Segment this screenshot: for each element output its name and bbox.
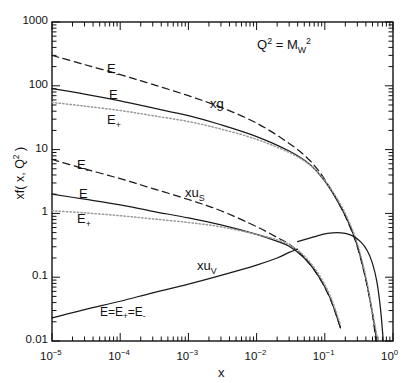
y-axis-label-tail: ) [13, 147, 27, 155]
x-tick-mantissa: 10 [245, 350, 258, 362]
y-tick-label: 1000 [22, 14, 48, 26]
e-plus-base: E [77, 211, 86, 226]
e-minus-base: E [77, 157, 86, 172]
x-tick-label: 10−3 [176, 348, 198, 362]
label-xu-sea: xuS [185, 185, 205, 203]
label-xu-sea-base: xu [185, 185, 199, 200]
y-tick-label: 100 [29, 78, 48, 90]
x-tick-exponent: 0 [394, 348, 398, 357]
x-tick-exponent: −4 [121, 348, 130, 357]
mw-subscript: W [298, 45, 306, 55]
figure-root: 0.010.11101001000 10−510−410−310−210−110… [0, 0, 417, 383]
e-minus-base: E [107, 61, 116, 76]
x-tick-label: 100 [381, 348, 398, 362]
valence-note-sub2: - [143, 312, 146, 321]
x-tick-exponent: −2 [257, 348, 266, 357]
y-axis-label-exponent: 2 [11, 154, 21, 159]
x-tick-exponent: −1 [326, 348, 335, 357]
label-xu-valence-subscript: V [211, 266, 217, 276]
label-gluon-e-minus: E- [107, 61, 119, 79]
x-tick-exponent: −5 [53, 348, 62, 357]
x-tick-label: 10−1 [313, 348, 335, 362]
e-plus-base: E [107, 112, 116, 127]
label-xu-valence-base: xu [197, 258, 211, 273]
x-tick-mantissa: 10 [176, 350, 189, 362]
y-tick-label: 10 [35, 142, 48, 154]
valence-note-b: =E [128, 305, 143, 319]
x-tick-mantissa: 10 [381, 350, 394, 362]
q2-annotation: Q2 = MW2 [257, 36, 311, 55]
scientific-plot [0, 0, 417, 383]
label-sea-e-nominal: E [79, 186, 88, 201]
label-xg: xg [210, 96, 224, 111]
valence-note-a: E=E [100, 305, 123, 319]
x-tick-label: 10−2 [245, 348, 267, 362]
e-plus-sub: + [116, 120, 121, 130]
x-tick-label: 10−4 [108, 348, 130, 362]
e-minus-sub: - [86, 165, 89, 175]
label-sea-e-minus: E- [77, 157, 89, 175]
x-tick-mantissa: 10 [108, 350, 121, 362]
plot-background [0, 0, 417, 383]
mw-exponent: 2 [306, 36, 311, 46]
x-axis-label: x [218, 365, 225, 380]
y-axis-label-text: xf( x, Q [13, 159, 27, 199]
label-gluon-e-plus: E+ [107, 112, 121, 130]
label-valence-note: E=E+=E- [100, 305, 146, 321]
y-tick-label: 1 [42, 205, 48, 217]
label-gluon-e-nominal: E [109, 87, 118, 102]
x-tick-mantissa: 10 [40, 350, 53, 362]
x-tick-mantissa: 10 [313, 350, 326, 362]
q2-equals: = [272, 37, 287, 52]
e-plus-sub: + [86, 219, 91, 229]
label-xu-valence: xuV [197, 258, 217, 276]
y-tick-label: 0.01 [26, 333, 48, 345]
y-axis-label: xf( x, Q2 ) [11, 128, 27, 218]
label-sea-e-plus: E+ [77, 211, 91, 229]
label-xu-sea-subscript: S [199, 193, 205, 203]
e-minus-sub: - [116, 69, 119, 79]
mw-base: M [287, 37, 298, 52]
y-tick-label: 0.1 [32, 269, 48, 281]
q2-base: Q [257, 37, 267, 52]
x-tick-exponent: −3 [189, 348, 198, 357]
x-tick-label: 10−5 [40, 348, 62, 362]
